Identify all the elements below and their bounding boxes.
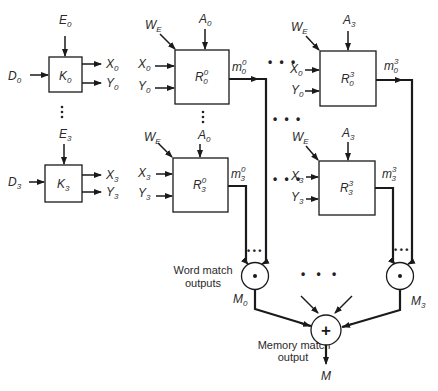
r33-out-label: m33 bbox=[382, 165, 397, 183]
m03-into-gate bbox=[408, 262, 412, 264]
m0-to-or-line bbox=[255, 290, 311, 326]
ellipsis-row3: • • • bbox=[273, 172, 302, 186]
cell-r03: R30 WE A3 X0 Y0 m30 bbox=[289, 13, 399, 106]
e3-label: E3 bbox=[59, 127, 72, 143]
word-match-caption-2: outputs bbox=[185, 277, 222, 289]
r03-label: R30 bbox=[341, 70, 355, 88]
r30-out-label: m03 bbox=[231, 165, 246, 183]
r33-we-label: WE bbox=[292, 130, 309, 146]
d0-label: D0 bbox=[8, 69, 22, 85]
r00-addr-label: A0 bbox=[198, 12, 212, 28]
e0-label: E0 bbox=[59, 13, 72, 29]
r03-we-arrow bbox=[306, 36, 319, 50]
cell-r33: R33 WE A3 X3 Y3 m33 bbox=[290, 126, 397, 215]
r00-we-arrow bbox=[160, 34, 175, 49]
d3-label: D3 bbox=[8, 175, 22, 191]
m0-label: M0 bbox=[233, 292, 248, 308]
x0-out-label: X0 bbox=[105, 57, 119, 73]
r03-we-label: WE bbox=[291, 20, 308, 36]
r00-y-label: Y0 bbox=[138, 79, 151, 95]
r33-y-label: Y3 bbox=[291, 190, 304, 206]
m33-line bbox=[375, 188, 393, 262]
ellipsis-gates: • • • bbox=[301, 267, 340, 281]
plus-icon: + bbox=[321, 321, 331, 340]
r30-addr-label: A0 bbox=[197, 128, 211, 144]
r30-we-arrow bbox=[158, 143, 172, 157]
r30-y-label: Y3 bbox=[138, 186, 151, 202]
key-register-k3: K3 E3 D3 X3 Y3 bbox=[8, 127, 119, 202]
m3-to-or-line bbox=[342, 290, 400, 327]
r30-label: R03 bbox=[193, 176, 207, 194]
cam-block-diagram: K0 E0 D0 X0 Y0 K3 E3 D3 X3 Y3 R00 WE A0 … bbox=[0, 0, 438, 391]
r03-out-label: m30 bbox=[384, 57, 399, 75]
m30-into-gate bbox=[246, 262, 248, 264]
ellipsis-middle: • • • bbox=[273, 112, 302, 126]
ellipsis-gate0-inputs: • • • bbox=[247, 246, 261, 256]
m3-label: M3 bbox=[411, 294, 426, 310]
r33-addr-label: A3 bbox=[341, 126, 355, 142]
key-register-k0: K0 E0 D0 X0 Y0 bbox=[8, 13, 119, 92]
and-dot-icon bbox=[253, 274, 257, 278]
r33-we-arrow bbox=[306, 146, 318, 160]
and-dot-icon bbox=[398, 274, 402, 278]
or-input-right-arrow bbox=[335, 296, 352, 313]
r30-x-label: X3 bbox=[137, 166, 151, 182]
r00-out-label: m00 bbox=[232, 58, 247, 76]
and-gate-m3: M3 bbox=[387, 263, 427, 311]
y3-out-label: Y3 bbox=[106, 185, 119, 201]
m00-into-gate bbox=[262, 262, 266, 264]
cell-r00: R00 WE A0 X0 Y0 m00 bbox=[137, 12, 247, 104]
ellipsis-row0-top: • • • bbox=[268, 55, 297, 69]
x3-out-label: X3 bbox=[105, 168, 119, 184]
or-gate: + bbox=[311, 315, 341, 345]
r00-label: R00 bbox=[195, 68, 209, 86]
r03-y-label: Y0 bbox=[291, 83, 304, 99]
and-gate-m0: M0 bbox=[233, 263, 269, 309]
r03-addr-label: A3 bbox=[342, 13, 356, 29]
r33-label: R33 bbox=[340, 179, 354, 197]
memory-match-caption-2: output bbox=[278, 351, 309, 363]
m-output-label: M bbox=[321, 369, 331, 383]
y0-out-label: Y0 bbox=[106, 76, 119, 92]
word-match-caption-1: Word match bbox=[173, 264, 232, 276]
k-vertical-ellipsis bbox=[61, 106, 64, 119]
or-input-left-arrow bbox=[301, 296, 318, 313]
r00-we-label: WE bbox=[145, 18, 162, 34]
ellipsis-gate3-inputs: • • • bbox=[394, 245, 408, 255]
r00-x-label: X0 bbox=[137, 57, 151, 73]
cell-r30: R03 WE A0 X3 Y3 m03 bbox=[137, 128, 246, 212]
r-col0-vertical-ellipsis bbox=[202, 111, 205, 124]
m30-line bbox=[228, 186, 246, 262]
